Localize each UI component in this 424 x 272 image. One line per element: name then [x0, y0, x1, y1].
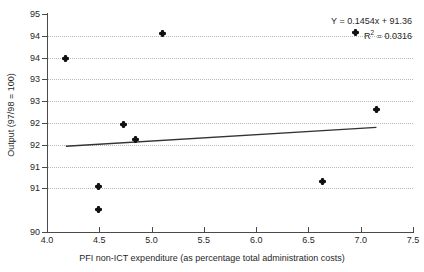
- x-axis-tick: [308, 227, 309, 232]
- data-point: [320, 179, 325, 184]
- x-axis-tick: [99, 227, 100, 232]
- y-axis-tick: [42, 14, 47, 15]
- scatter-chart: 95949493939292919190 4.04.55.05.56.06.57…: [0, 0, 424, 272]
- x-axis-tick-label: 6.5: [288, 236, 328, 245]
- y-axis-tick: [42, 145, 47, 146]
- y-axis-tick: [42, 36, 47, 37]
- y-axis-tick: [42, 79, 47, 80]
- data-point: [96, 184, 101, 189]
- x-axis-tick-label: 4.5: [79, 236, 119, 245]
- y-axis-tick: [42, 123, 47, 124]
- r-squared-line: R2 = 0.0316: [331, 27, 412, 42]
- data-point: [160, 31, 165, 36]
- y-axis-tick: [42, 167, 47, 168]
- y-axis-tick: [42, 232, 47, 233]
- x-axis-line: [46, 232, 414, 233]
- data-point: [96, 207, 101, 212]
- x-axis-tick-label: 7.5: [393, 236, 424, 245]
- y-axis-tick: [42, 58, 47, 59]
- data-point: [121, 122, 126, 127]
- y-axis-tick: [42, 188, 47, 189]
- data-point: [374, 107, 379, 112]
- y-axis-line: [47, 13, 48, 233]
- x-axis-tick-label: 5.0: [132, 236, 172, 245]
- x-axis-tick-label: 4.0: [27, 236, 67, 245]
- gridline: [48, 79, 413, 80]
- x-axis-tick-label: 5.5: [184, 236, 224, 245]
- gridline: [48, 145, 413, 146]
- x-axis-tick: [413, 227, 414, 232]
- gridline: [48, 123, 413, 124]
- gridline: [48, 101, 413, 102]
- y-axis-tick: [42, 101, 47, 102]
- y-axis-title: Output (97/98 = 100): [6, 50, 16, 180]
- x-axis-tick: [361, 227, 362, 232]
- data-point: [63, 56, 68, 61]
- gridline: [48, 167, 413, 168]
- gridline: [48, 188, 413, 189]
- data-point: [133, 137, 138, 142]
- x-axis-tick-label: 7.0: [341, 236, 381, 245]
- regression-annotation: Y = 0.1454x + 91.36 R2 = 0.0316: [331, 15, 412, 42]
- r-squared-value: = 0.0316: [374, 31, 412, 41]
- y-axis-tick-label: 91: [4, 184, 40, 193]
- x-axis-tick: [47, 227, 48, 232]
- x-axis-tick: [204, 227, 205, 232]
- x-axis-title: PFI non-ICT expenditure (as percentage t…: [0, 253, 424, 263]
- x-axis-tick: [152, 227, 153, 232]
- regression-equation: Y = 0.1454x + 91.36: [331, 15, 412, 27]
- x-axis-tick-label: 6.0: [236, 236, 276, 245]
- y-axis-tick-label: 94: [4, 32, 40, 41]
- x-axis-tick: [256, 227, 257, 232]
- y-axis-tick-label: 95: [4, 10, 40, 19]
- gridline: [48, 58, 413, 59]
